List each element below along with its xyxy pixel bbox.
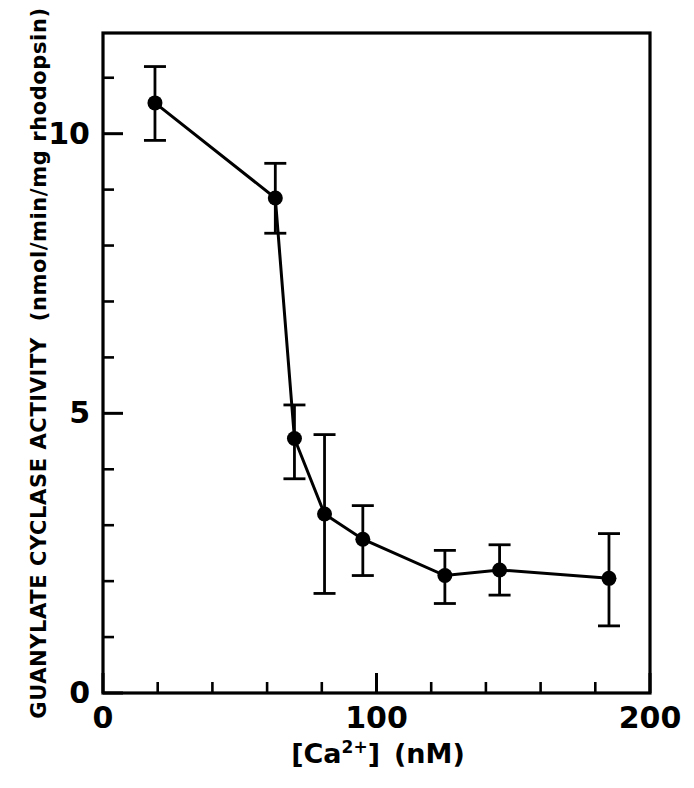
x-tick-label-200: 200 — [619, 700, 682, 735]
x-axis-tick-labels: 0100200 — [93, 700, 682, 735]
x-tick-label-100: 100 — [345, 700, 408, 735]
plot-frame — [103, 33, 650, 693]
data-point-3 — [317, 507, 332, 522]
x-axis-superscript: 2+ — [342, 737, 368, 757]
data-point-7 — [601, 571, 616, 586]
y-tick-label-0: 0 — [69, 675, 90, 710]
data-point-0 — [147, 95, 162, 110]
data-point-5 — [437, 568, 452, 583]
x-axis-bracket-open: [ — [291, 738, 303, 769]
x-axis-title: [Ca2+](nM) — [291, 737, 465, 769]
x-tick-label-0: 0 — [93, 700, 114, 735]
y-axis-title-units: (nmol/min/mg rhodopsin) — [27, 7, 51, 321]
data-point-6 — [492, 562, 507, 577]
figure-container: 0510 0100200 [Ca2+](nM) GUANYLATE CYCLAS… — [0, 0, 694, 788]
y-axis-title: GUANYLATE CYCLASE ACTIVITY(nmol/min/mg r… — [27, 7, 51, 718]
svg-text:GUANYLATE CYCLASE ACTIVITY(n: GUANYLATE CYCLASE ACTIVITY(nmol/min/mg r… — [27, 7, 51, 718]
x-axis-species: Ca — [304, 738, 342, 769]
y-axis-tick-labels: 0510 — [48, 116, 90, 710]
x-axis-unit: (nM) — [394, 738, 465, 769]
x-axis-bracket-close: ] — [368, 738, 380, 769]
y-tick-label-10: 10 — [48, 116, 90, 151]
data-point-1 — [268, 191, 283, 206]
y-tick-label-5: 5 — [69, 395, 90, 430]
svg-text:[Ca2+](nM): [Ca2+](nM) — [291, 737, 465, 769]
data-point-4 — [355, 532, 370, 547]
y-axis-title-main: GUANYLATE CYCLASE ACTIVITY — [27, 337, 51, 719]
data-point-2 — [287, 431, 302, 446]
plot-area-border — [103, 33, 650, 693]
guanylate-cyclase-activity-chart: 0510 0100200 [Ca2+](nM) GUANYLATE CYCLAS… — [0, 0, 694, 788]
